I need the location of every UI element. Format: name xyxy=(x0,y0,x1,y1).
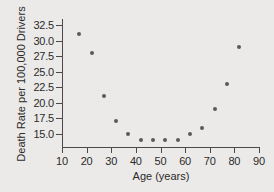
data-point xyxy=(176,138,180,142)
y-tick-mark xyxy=(56,72,62,73)
x-tick-label: 20 xyxy=(74,155,100,167)
x-tick-mark xyxy=(111,148,112,153)
data-point xyxy=(139,138,143,142)
x-tick-mark xyxy=(87,148,88,153)
x-tick-mark xyxy=(234,148,235,153)
data-point xyxy=(213,107,217,111)
x-tick-label: 60 xyxy=(172,155,198,167)
x-tick-label: 70 xyxy=(197,155,223,167)
x-tick-label: 90 xyxy=(246,155,272,167)
y-axis-line xyxy=(62,19,63,148)
data-point xyxy=(126,132,130,136)
scatter-chart: 15.017.520.022.525.027.530.032.5 1020304… xyxy=(0,0,274,192)
x-tick-label: 10 xyxy=(49,155,75,167)
x-tick-label: 40 xyxy=(123,155,149,167)
x-tick-mark xyxy=(136,148,137,153)
y-tick-mark xyxy=(56,118,62,119)
data-point xyxy=(151,138,155,142)
data-point xyxy=(163,138,167,142)
y-tick-mark xyxy=(56,25,62,26)
data-point xyxy=(200,126,204,130)
data-point xyxy=(114,119,118,123)
data-point xyxy=(90,51,94,55)
data-point xyxy=(188,132,192,136)
x-tick-mark xyxy=(185,148,186,153)
x-tick-mark xyxy=(259,148,260,153)
y-tick-mark xyxy=(56,134,62,135)
x-tick-mark xyxy=(161,148,162,153)
x-axis-title: Age (years) xyxy=(62,170,260,182)
data-point xyxy=(237,45,241,49)
y-tick-mark xyxy=(56,103,62,104)
x-tick-mark xyxy=(62,148,63,153)
data-point xyxy=(225,82,229,86)
x-tick-label: 50 xyxy=(148,155,174,167)
y-axis-title: Death Rate per 100,000 Drivers xyxy=(15,0,27,168)
x-tick-label: 80 xyxy=(221,155,247,167)
data-point xyxy=(77,32,81,36)
y-tick-mark xyxy=(56,56,62,57)
x-tick-mark xyxy=(210,148,211,153)
y-tick-mark xyxy=(56,87,62,88)
x-tick-label: 30 xyxy=(98,155,124,167)
y-tick-mark xyxy=(56,41,62,42)
data-point xyxy=(102,94,106,98)
